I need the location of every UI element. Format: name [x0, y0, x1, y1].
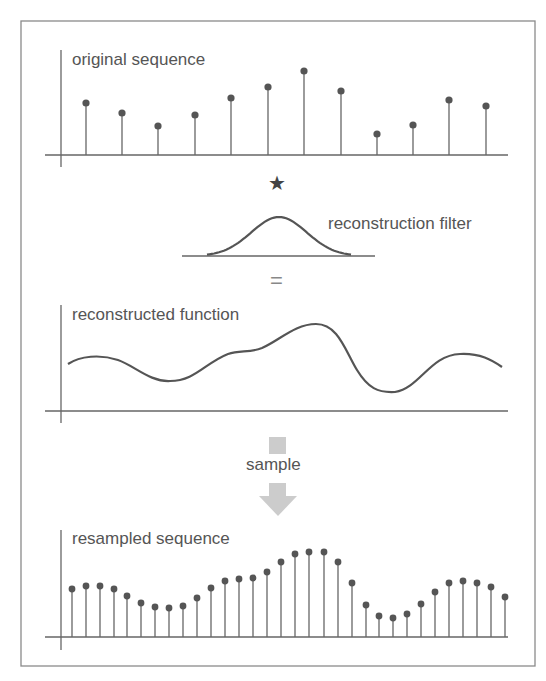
stem-dot	[418, 601, 425, 608]
stem-dot	[446, 580, 453, 587]
stem-dot	[482, 102, 489, 109]
stem-dot	[278, 559, 285, 566]
resampled-sequence-label: resampled sequence	[72, 529, 230, 549]
stem-dot	[111, 586, 118, 593]
reconstructed-curve	[68, 324, 502, 392]
stem-dot	[69, 586, 76, 593]
equals-sign: =	[270, 268, 283, 294]
stem-dot	[194, 595, 201, 602]
stem-dot	[83, 583, 90, 590]
sample-arrow-icon	[259, 437, 297, 516]
stem-dot	[236, 576, 243, 583]
arrow-head	[259, 496, 297, 516]
stem-dot	[292, 551, 299, 558]
diagram-frame	[21, 21, 535, 666]
stem-dot	[152, 604, 159, 611]
stem-dot	[306, 549, 313, 556]
stem-dot	[82, 99, 89, 106]
stem-dot	[208, 585, 215, 592]
stem-dot	[445, 96, 452, 103]
stem-dot	[460, 578, 467, 585]
stem-dot	[432, 589, 439, 596]
stem-dot	[390, 615, 397, 622]
stem-dot	[337, 87, 344, 94]
stem-dot	[138, 600, 145, 607]
stem-dot	[409, 121, 416, 128]
stem-dot	[264, 569, 271, 576]
stem-dot	[502, 594, 509, 601]
stem-dot	[124, 593, 131, 600]
stem-dot	[154, 122, 161, 129]
arrow-shaft	[269, 483, 286, 497]
stem-dot	[222, 578, 229, 585]
stem-dot	[488, 584, 495, 591]
arrow-top-square	[269, 437, 286, 454]
stem-dot	[474, 580, 481, 587]
stem-dot	[250, 575, 257, 582]
stem-dot	[335, 559, 342, 566]
stem-dot	[300, 67, 307, 74]
stem-dot	[180, 603, 187, 610]
stem-dot	[404, 611, 411, 618]
stem-dot	[349, 580, 356, 587]
stem-dot	[321, 549, 328, 556]
stem-dot	[191, 111, 198, 118]
reconstruction-filter-label: reconstruction filter	[328, 214, 472, 234]
convolution-star-icon: ★	[268, 171, 286, 195]
diagram-canvas	[0, 0, 546, 681]
sample-label: sample	[246, 455, 301, 475]
stem-dot	[363, 602, 370, 609]
stem-dot	[227, 94, 234, 101]
stem-dot	[373, 130, 380, 137]
stem-dot	[118, 109, 125, 116]
stem-dot	[166, 605, 173, 612]
stem-dot	[97, 583, 104, 590]
stem-dot	[376, 613, 383, 620]
stem-dot	[264, 83, 271, 90]
reconstructed-function-label: reconstructed function	[72, 305, 239, 325]
original-sequence-label: original sequence	[72, 50, 205, 70]
